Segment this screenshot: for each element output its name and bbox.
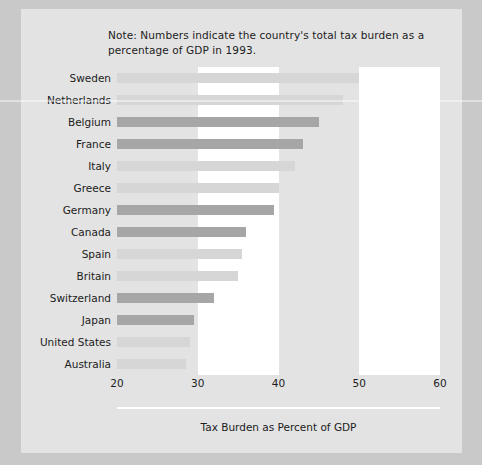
bar-britain	[117, 271, 238, 281]
category-label-france: France	[21, 133, 111, 155]
bars-layer	[117, 67, 440, 375]
bar-netherlands	[117, 95, 343, 105]
plot-area	[117, 67, 440, 375]
category-label-greece: Greece	[21, 177, 111, 199]
category-label-japan: Japan	[21, 309, 111, 331]
bar-australia	[117, 359, 186, 369]
category-label-spain: Spain	[21, 243, 111, 265]
bar-row	[117, 133, 440, 155]
bar-switzerland	[117, 293, 214, 303]
bar-france	[117, 139, 303, 149]
bar-row	[117, 155, 440, 177]
bar-united-states	[117, 337, 190, 347]
bar-row	[117, 287, 440, 309]
bar-italy	[117, 161, 295, 171]
bar-japan	[117, 315, 194, 325]
x-tick-label-30: 30	[191, 377, 204, 389]
bar-row	[117, 111, 440, 133]
x-axis-rule	[117, 407, 440, 409]
x-axis-title: Tax Burden as Percent of GDP	[117, 421, 440, 433]
bar-germany	[117, 205, 274, 215]
bar-row	[117, 353, 440, 375]
bar-row	[117, 89, 440, 111]
category-label-sweden: Sweden	[21, 67, 111, 89]
bar-row	[117, 309, 440, 331]
bar-canada	[117, 227, 246, 237]
bar-sweden	[117, 73, 359, 83]
bar-row	[117, 243, 440, 265]
category-label-belgium: Belgium	[21, 111, 111, 133]
category-label-britain: Britain	[21, 265, 111, 287]
category-label-united-states: United States	[21, 331, 111, 353]
x-tick-label-40: 40	[272, 377, 285, 389]
bar-row	[117, 331, 440, 353]
category-label-canada: Canada	[21, 221, 111, 243]
bar-belgium	[117, 117, 319, 127]
bar-spain	[117, 249, 242, 259]
bar-row	[117, 265, 440, 287]
bar-row	[117, 67, 440, 89]
bar-row	[117, 199, 440, 221]
category-label-germany: Germany	[21, 199, 111, 221]
category-axis-labels: SwedenNetherlandsBelgiumFranceItalyGreec…	[21, 67, 111, 375]
bar-row	[117, 177, 440, 199]
category-label-switzerland: Switzerland	[21, 287, 111, 309]
chart-figure: Note: Numbers indicate the country's tot…	[21, 9, 462, 453]
x-tick-label-60: 60	[433, 377, 446, 389]
bar-greece	[117, 183, 279, 193]
bar-row	[117, 221, 440, 243]
category-label-netherlands: Netherlands	[21, 89, 111, 111]
category-label-italy: Italy	[21, 155, 111, 177]
x-tick-label-50: 50	[353, 377, 366, 389]
x-axis-tick-labels: 2030405060	[117, 377, 440, 393]
x-tick-label-20: 20	[110, 377, 123, 389]
category-label-australia: Australia	[21, 353, 111, 375]
chart-note: Note: Numbers indicate the country's tot…	[108, 28, 428, 58]
